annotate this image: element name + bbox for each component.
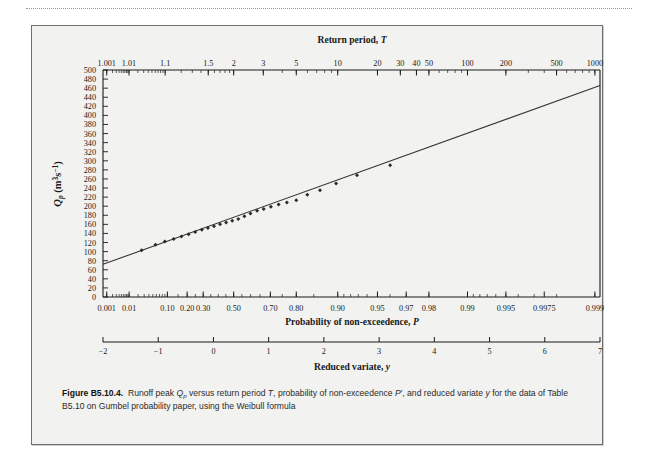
- figure-panel: [31, 25, 603, 445]
- page-top-rule: [26, 8, 632, 9]
- figure-caption: Figure B5.10.4. Runoff peak Qp versus re…: [62, 387, 574, 413]
